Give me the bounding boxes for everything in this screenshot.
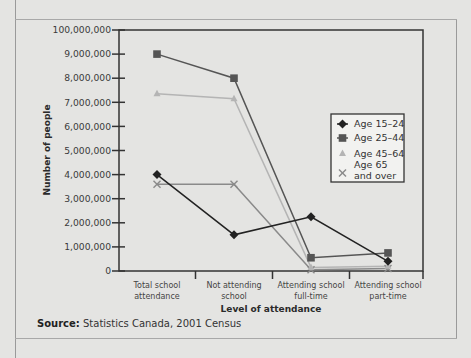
- legend-label: Age 65: [354, 159, 387, 170]
- y-tick-label: 1,000,000: [64, 241, 111, 252]
- x-category-label: Not attending: [206, 281, 261, 290]
- source-text: Statistics Canada, 2001 Census: [80, 318, 241, 329]
- data-point-diamond: [307, 212, 316, 221]
- legend-label: Age 15–24: [354, 118, 404, 129]
- data-point-square: [384, 249, 392, 257]
- series-line-0: [157, 175, 388, 262]
- data-point-square: [307, 254, 315, 262]
- data-point-square: [153, 50, 161, 58]
- data-point-diamond: [384, 257, 393, 266]
- data-point-square: [230, 74, 238, 82]
- y-tick-label: 9,000,000: [64, 48, 111, 59]
- x-category-label: Attending school: [354, 281, 421, 290]
- legend-marker-square: [339, 134, 347, 142]
- y-tick-label: 100,000,000: [53, 24, 112, 35]
- x-category-label: full-time: [294, 292, 327, 301]
- y-tick-label: 0: [105, 265, 111, 276]
- line-chart: 01,000,0002,000,0003,000,0004,000,0005,0…: [0, 0, 471, 358]
- series-line-3: [157, 184, 388, 270]
- x-category-label: part-time: [369, 292, 406, 301]
- x-category-label: Total school: [133, 281, 181, 290]
- y-axis-title: Number of people: [42, 104, 52, 195]
- source-label: Source:: [37, 318, 80, 329]
- y-tick-label: 4,000,000: [64, 169, 111, 180]
- y-tick-label: 2,000,000: [64, 217, 111, 228]
- y-tick-label: 6,000,000: [64, 121, 111, 132]
- y-tick-label: 7,000,000: [64, 97, 111, 108]
- x-axis-title: Level of attendance: [221, 304, 322, 314]
- y-tick-label: 3,000,000: [64, 193, 111, 204]
- x-category-label: school: [221, 292, 247, 301]
- legend-label: Age 25–44: [354, 132, 404, 143]
- y-tick-label: 8,000,000: [64, 72, 111, 83]
- x-category-label: Attending school: [277, 281, 344, 290]
- data-point-triangle: [154, 90, 161, 97]
- y-tick-label: 5,000,000: [64, 145, 111, 156]
- legend-label: Age 45–64: [354, 148, 404, 159]
- legend-label: and over: [354, 170, 396, 181]
- source-note: Source: Statistics Canada, 2001 Census: [37, 318, 241, 329]
- x-category-label: attendance: [134, 292, 180, 301]
